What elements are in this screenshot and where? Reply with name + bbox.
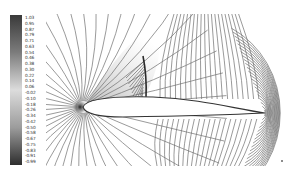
colorbar-label: 0.06 bbox=[25, 84, 34, 89]
colorbar-label: 0.71 bbox=[25, 38, 34, 43]
suction-region bbox=[86, 29, 159, 104]
colorbar-label: -0.10 bbox=[25, 96, 36, 101]
colorbar-labels: 1.030.950.870.790.710.630.540.460.380.30… bbox=[25, 15, 45, 165]
contour-line bbox=[46, 111, 79, 166]
colorbar-label: 0.22 bbox=[25, 73, 34, 78]
colorbar-label: -0.18 bbox=[25, 102, 36, 107]
airfoil bbox=[83, 97, 265, 117]
contour-lines-midchord bbox=[155, 14, 259, 166]
contour-line bbox=[175, 14, 184, 99]
colorbar-label: -0.02 bbox=[25, 90, 36, 95]
colorbar-label: -0.91 bbox=[25, 153, 36, 158]
contour-line bbox=[85, 113, 136, 166]
contour-line bbox=[228, 14, 243, 99]
contour-field bbox=[46, 14, 282, 166]
colorbar-label: -0.26 bbox=[25, 107, 36, 112]
contour-figure: 1.030.950.870.790.710.630.540.460.380.30… bbox=[0, 0, 289, 172]
contour-line bbox=[232, 14, 249, 99]
colorbar-label: 0.38 bbox=[25, 61, 34, 66]
colorbar-label: -0.34 bbox=[25, 113, 36, 118]
contour-line bbox=[48, 14, 82, 101]
colorbar-label: -0.99 bbox=[25, 159, 36, 164]
contour-line bbox=[215, 14, 223, 99]
colorbar-label: 0.14 bbox=[25, 78, 34, 83]
colorbar-label: 0.30 bbox=[25, 67, 34, 72]
contour-line bbox=[191, 14, 195, 99]
colorbar-label: -0.42 bbox=[25, 119, 36, 124]
contour-line bbox=[230, 119, 246, 166]
colorbar-label: 0.46 bbox=[25, 55, 34, 60]
contour-line bbox=[204, 119, 215, 166]
colorbar-label: 0.79 bbox=[25, 32, 34, 37]
contour-line bbox=[46, 31, 78, 104]
colorbar-label: 0.95 bbox=[25, 21, 34, 26]
contour-line bbox=[187, 119, 194, 166]
contour-line bbox=[209, 119, 221, 166]
contour-line bbox=[196, 119, 205, 166]
contour-line bbox=[46, 14, 81, 101]
contour-line bbox=[55, 113, 82, 166]
contour-line bbox=[169, 119, 173, 166]
contour-line bbox=[186, 14, 191, 99]
contour-line bbox=[218, 14, 227, 99]
colorbar-label: 0.54 bbox=[25, 50, 34, 55]
contour-line bbox=[46, 14, 80, 102]
contour-line bbox=[89, 109, 220, 163]
colorbar-label: 0.87 bbox=[25, 27, 34, 32]
colorbar-label: -0.75 bbox=[25, 142, 36, 147]
contour-line bbox=[174, 119, 179, 166]
contour-line bbox=[222, 14, 233, 99]
corner-mark bbox=[281, 160, 283, 162]
contour-line bbox=[208, 14, 212, 99]
colorbar-label: -0.83 bbox=[25, 148, 36, 153]
colorbar-label: -0.58 bbox=[25, 130, 36, 135]
contour-line bbox=[69, 14, 87, 101]
contour-line bbox=[86, 112, 155, 166]
colorbar-label: 0.63 bbox=[25, 44, 34, 49]
contour-line bbox=[200, 14, 201, 99]
contour-line bbox=[234, 119, 251, 166]
contour-line bbox=[155, 119, 158, 166]
contour-line bbox=[183, 119, 189, 166]
contour-line bbox=[196, 14, 198, 99]
colorbar-label: -0.50 bbox=[25, 125, 36, 130]
colorbar bbox=[10, 15, 22, 165]
colorbar-gradient bbox=[10, 15, 22, 165]
colorbar-label: 1.03 bbox=[25, 15, 34, 20]
colorbar-label: -0.67 bbox=[25, 136, 36, 141]
